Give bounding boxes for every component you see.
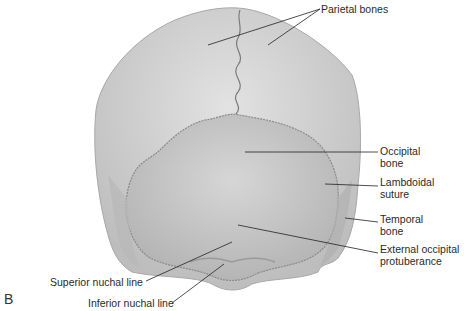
- label-parietal-bones: Parietal bones: [321, 3, 388, 15]
- label-superior-nuchal-line: Superior nuchal line: [50, 276, 143, 288]
- label-external-occipital-protuberance: External occipital protuberance: [380, 243, 459, 267]
- label-lambdoidal-suture: Lambdoidal suture: [380, 176, 434, 200]
- label-temporal-bone: Temporal bone: [380, 213, 423, 237]
- label-occipital-bone: Occipital bone: [380, 145, 420, 169]
- label-inferior-nuchal-line: Inferior nuchal line: [88, 297, 174, 309]
- panel-letter: B: [4, 291, 13, 307]
